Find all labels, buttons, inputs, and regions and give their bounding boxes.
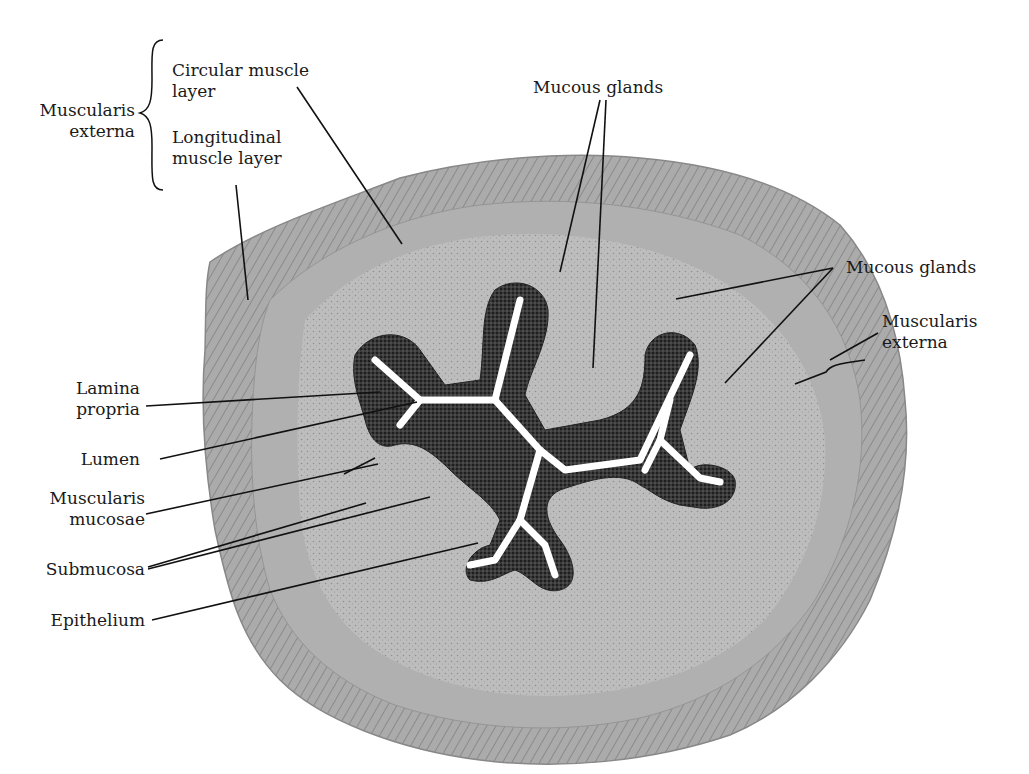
esophagus-cross-section-diagram xyxy=(0,0,1029,774)
muscularis-externa-brace xyxy=(140,40,163,190)
label-muscularis-externa-right: Muscularis externa xyxy=(882,311,977,353)
label-muscularis-externa-top: Muscularis externa xyxy=(10,100,135,142)
label-muscularis-mucosae: Muscularis mucosae xyxy=(10,488,145,530)
label-longitudinal-muscle-layer: Longitudinal muscle layer xyxy=(172,127,282,169)
label-epithelium: Epithelium xyxy=(10,610,145,631)
label-lamina-propria: Lamina propria xyxy=(10,378,140,420)
label-mucous-glands-top: Mucous glands xyxy=(533,77,663,98)
label-lumen: Lumen xyxy=(10,449,140,470)
label-circular-muscle-layer: Circular muscle layer xyxy=(172,60,309,102)
label-mucous-glands-right: Mucous glands xyxy=(846,257,976,278)
label-submucosa: Submucosa xyxy=(10,559,145,580)
